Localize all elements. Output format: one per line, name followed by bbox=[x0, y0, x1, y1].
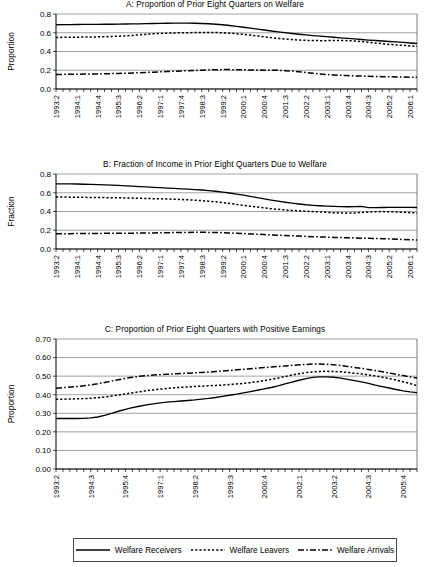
x-tick-label: 1997:4 bbox=[177, 255, 186, 278]
x-tick-label: 2000:4 bbox=[260, 95, 269, 118]
x-tick-label: 2004:3 bbox=[364, 475, 373, 498]
y-tick-label: 0.20 bbox=[35, 428, 51, 437]
x-tick-label: 2003:4 bbox=[344, 95, 353, 118]
chart-panel-a: A: Proportion of Prior Eight Quarters on… bbox=[0, 0, 430, 160]
series-line bbox=[56, 197, 417, 213]
x-tick-label: 2000:4 bbox=[260, 475, 269, 498]
y-axis-title: Proportion bbox=[6, 384, 16, 423]
x-tick-label: 1993:2 bbox=[52, 475, 61, 498]
x-tick-label: 2005:2 bbox=[385, 95, 394, 118]
y-tick-label: 0.10 bbox=[35, 446, 51, 455]
y-tick-label: 0.2 bbox=[40, 226, 52, 235]
y-axis-title: Fraction bbox=[6, 196, 16, 227]
x-tick-label: 1993:2 bbox=[52, 95, 61, 118]
series-line bbox=[56, 70, 417, 78]
y-tick-label: 0.00 bbox=[35, 465, 51, 474]
panel-a-svg: 0.00.20.40.60.8Proportion1993:21994:1199… bbox=[0, 10, 430, 160]
x-tick-label: 1995:4 bbox=[121, 475, 130, 498]
x-tick-label: 1993:2 bbox=[52, 255, 61, 278]
y-axis-title: Proportion bbox=[6, 32, 16, 71]
y-tick-label: 0.0 bbox=[40, 245, 52, 254]
legend-swatch-solid bbox=[76, 546, 110, 554]
x-tick-label: 1997:4 bbox=[177, 95, 186, 118]
legend-swatch-dash-dot bbox=[298, 546, 332, 554]
y-tick-label: 0.70 bbox=[35, 335, 51, 344]
y-tick-label: 0.6 bbox=[40, 189, 52, 198]
y-tick-label: 0.6 bbox=[40, 29, 52, 38]
x-tick-label: 2001:3 bbox=[281, 255, 290, 278]
x-tick-label: 1999:2 bbox=[219, 255, 228, 278]
x-tick-label: 1994:1 bbox=[73, 255, 82, 278]
x-tick-label: 2005:2 bbox=[385, 255, 394, 278]
panel-c-svg: 0.000.100.200.300.400.500.600.70Proporti… bbox=[0, 335, 430, 540]
x-tick-label: 1996:2 bbox=[135, 95, 144, 118]
panel-b-title: B: Fraction of Income in Prior Eight Qua… bbox=[0, 160, 430, 169]
y-tick-label: 0.8 bbox=[40, 10, 52, 19]
panel-c-title: C: Proportion of Prior Eight Quarters wi… bbox=[0, 325, 430, 334]
x-tick-label: 2004:3 bbox=[364, 95, 373, 118]
panel-a-plot: 0.00.20.40.60.8Proportion1993:21994:1199… bbox=[0, 10, 430, 160]
x-tick-label: 2006:1 bbox=[406, 95, 415, 118]
x-tick-label: 1998:2 bbox=[191, 475, 200, 498]
x-tick-label: 2002:2 bbox=[302, 95, 311, 118]
x-tick-label: 1996:2 bbox=[135, 255, 144, 278]
x-tick-label: 1997:1 bbox=[156, 255, 165, 278]
x-tick-label: 2003:1 bbox=[323, 95, 332, 118]
y-tick-label: 0.2 bbox=[40, 66, 52, 75]
x-tick-label: 2000:1 bbox=[239, 255, 248, 278]
x-tick-label: 1998:3 bbox=[198, 95, 207, 118]
x-tick-label: 1999:2 bbox=[219, 95, 228, 118]
legend-label-welfare-arrivals: Welfare Arrivals bbox=[337, 546, 394, 555]
x-tick-label: 1994:4 bbox=[94, 95, 103, 118]
y-tick-label: 0.30 bbox=[35, 409, 51, 418]
x-tick-label: 1995:3 bbox=[114, 255, 123, 278]
x-tick-label: 2003:2 bbox=[330, 475, 339, 498]
legend-item-welfare-arrivals: Welfare Arrivals bbox=[298, 546, 394, 555]
x-tick-label: 2004:3 bbox=[364, 255, 373, 278]
y-tick-label: 0.0 bbox=[40, 85, 52, 94]
y-tick-label: 0.4 bbox=[40, 207, 52, 216]
x-tick-label: 1997:1 bbox=[156, 95, 165, 118]
y-tick-label: 0.40 bbox=[35, 391, 51, 400]
x-tick-label: 2002:1 bbox=[295, 475, 304, 498]
x-tick-label: 2005:4 bbox=[399, 475, 408, 498]
legend-label-welfare-receivers: Welfare Receivers bbox=[115, 546, 182, 555]
x-tick-label: 2001:3 bbox=[281, 95, 290, 118]
legend-swatch-dotted bbox=[191, 546, 225, 554]
y-tick-label: 0.60 bbox=[35, 353, 51, 362]
x-tick-label: 2000:4 bbox=[260, 255, 269, 278]
x-tick-label: 2006:1 bbox=[406, 255, 415, 278]
x-tick-label: 1999:3 bbox=[226, 475, 235, 498]
x-tick-label: 1995:3 bbox=[114, 95, 123, 118]
x-tick-label: 1994:3 bbox=[87, 475, 96, 498]
x-tick-label: 1998:3 bbox=[198, 255, 207, 278]
chart-panel-b: B: Fraction of Income in Prior Eight Qua… bbox=[0, 160, 430, 320]
legend: Welfare Receivers Welfare Leavers Welfar… bbox=[73, 538, 397, 562]
x-tick-label: 1994:1 bbox=[73, 95, 82, 118]
panel-b-svg: 0.00.20.40.60.8Fraction1993:21994:11994:… bbox=[0, 170, 430, 320]
legend-item-welfare-receivers: Welfare Receivers bbox=[76, 546, 182, 555]
x-tick-label: 1997:1 bbox=[156, 475, 165, 498]
x-tick-label: 1994:4 bbox=[94, 255, 103, 278]
figure-root: A: Proportion of Prior Eight Quarters on… bbox=[0, 0, 430, 567]
legend-item-welfare-leavers: Welfare Leavers bbox=[191, 546, 289, 555]
panel-a-title: A: Proportion of Prior Eight Quarters on… bbox=[0, 0, 430, 9]
panel-b-plot: 0.00.20.40.60.8Fraction1993:21994:11994:… bbox=[0, 170, 430, 320]
x-tick-label: 2002:2 bbox=[302, 255, 311, 278]
y-tick-label: 0.50 bbox=[35, 372, 51, 381]
y-tick-label: 0.8 bbox=[40, 170, 52, 179]
y-tick-label: 0.4 bbox=[40, 47, 52, 56]
chart-panel-c: C: Proportion of Prior Eight Quarters wi… bbox=[0, 325, 430, 540]
series-line bbox=[56, 232, 417, 240]
x-tick-label: 2000:1 bbox=[239, 95, 248, 118]
legend-label-welfare-leavers: Welfare Leavers bbox=[230, 546, 289, 555]
series-line bbox=[56, 377, 417, 419]
x-tick-label: 2003:4 bbox=[344, 255, 353, 278]
x-tick-label: 2003:1 bbox=[323, 255, 332, 278]
panel-c-plot: 0.000.100.200.300.400.500.600.70Proporti… bbox=[0, 335, 430, 540]
